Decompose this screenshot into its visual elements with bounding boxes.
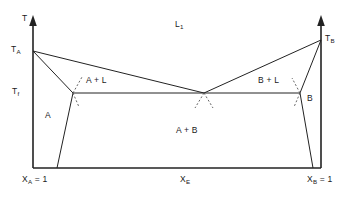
tick-X-B-sub: B: [313, 178, 317, 185]
tick-X-A-suffix: = 1: [32, 174, 47, 184]
region-label-a-plus-b: A + B: [176, 126, 198, 135]
right-axis: [317, 15, 325, 168]
phase-diagram-canvas: [0, 0, 354, 197]
tick-label-X-A: XA = 1: [22, 175, 47, 184]
tick-label-T-B: TB: [325, 34, 335, 43]
tick-T-B-sub: B: [330, 37, 334, 44]
phase-diagram-figure: T TA Tf TB XA = 1 XE XB = 1 L1 A + L B +…: [0, 0, 354, 197]
tick-X-B-text: X: [307, 174, 313, 184]
eutectic-dash-left-icon: [195, 93, 204, 108]
region-label-a-plus-liquid: A + L: [86, 76, 107, 85]
eutectic-dash-right-icon: [204, 93, 213, 108]
y-axis-label: T: [22, 14, 27, 23]
tick-X-E-text: X: [180, 174, 186, 184]
right-point-dash-up-icon: [292, 78, 300, 93]
tick-X-B-suffix: = 1: [317, 174, 332, 184]
tick-X-A-sub: A: [28, 178, 32, 185]
tick-label-T-A: TA: [11, 45, 21, 54]
region-label-b-plus-liquid: B + L: [258, 76, 279, 85]
region-label-b: B: [307, 94, 313, 103]
left-point-dash-down-icon: [73, 93, 79, 107]
tick-T-A-sub: A: [16, 48, 20, 55]
region-label-liquid: L1: [175, 20, 184, 29]
tick-X-E-sub: E: [186, 178, 190, 185]
region-label-a: A: [45, 111, 51, 120]
region-liquid-sub: 1: [180, 23, 184, 30]
tick-label-T-f: Tf: [12, 87, 19, 96]
tick-label-X-B: XB = 1: [307, 175, 332, 184]
tick-X-A-text: X: [22, 174, 28, 184]
left-point-dash-up-icon: [73, 77, 82, 93]
right-point-dash-down-icon: [294, 93, 300, 107]
tick-label-X-E: XE: [180, 175, 190, 184]
liquidus-lines: [33, 40, 321, 93]
y-axis: [29, 15, 37, 168]
